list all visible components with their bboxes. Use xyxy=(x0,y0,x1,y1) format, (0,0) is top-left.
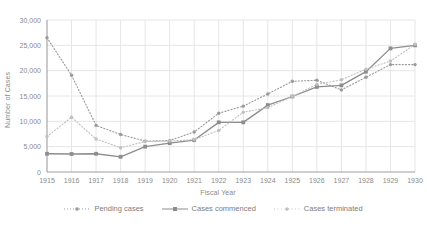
x-tick-label: 1922 xyxy=(211,177,227,184)
x-tick-label: 1926 xyxy=(309,177,325,184)
data-point[interactable] xyxy=(168,139,171,142)
data-point[interactable] xyxy=(119,155,123,159)
data-point[interactable] xyxy=(340,88,343,91)
data-point[interactable] xyxy=(315,83,318,86)
y-tick-label: 15,000 xyxy=(20,93,42,100)
legend-label-pending-cases: Pending cases xyxy=(94,204,143,213)
data-point[interactable] xyxy=(70,74,73,77)
data-point[interactable] xyxy=(119,146,122,149)
data-point[interactable] xyxy=(364,67,367,70)
plot-area: 05,00010,00015,00020,00025,00030,000 191… xyxy=(0,0,427,231)
x-tick-labels: 1915191619171918191919201921192219231924… xyxy=(39,177,423,184)
legend-label-cases-commenced: Cases commenced xyxy=(192,204,256,213)
data-point[interactable] xyxy=(364,76,367,79)
y-axis-title: Number of Cases xyxy=(4,72,11,128)
data-point[interactable] xyxy=(70,116,73,119)
data-point[interactable] xyxy=(94,137,97,140)
legend-swatch-pending-icon xyxy=(64,205,90,213)
x-tick-label: 1925 xyxy=(285,177,301,184)
data-point[interactable] xyxy=(389,46,393,50)
y-tick-label: 25,000 xyxy=(20,42,42,49)
x-tick-label: 1915 xyxy=(39,177,55,184)
legend-label-cases-terminated: Cases terminated xyxy=(304,204,363,213)
legend-swatch-commenced-icon xyxy=(162,205,188,213)
data-point[interactable] xyxy=(70,152,74,156)
data-series xyxy=(45,36,417,159)
data-point[interactable] xyxy=(266,106,269,109)
data-point[interactable] xyxy=(217,112,220,115)
data-point[interactable] xyxy=(94,124,97,127)
data-point[interactable] xyxy=(340,78,343,81)
x-tick-label: 1917 xyxy=(88,177,104,184)
data-point[interactable] xyxy=(413,63,416,66)
data-point[interactable] xyxy=(143,145,147,149)
data-point[interactable] xyxy=(340,83,344,87)
legend-item-pending-cases[interactable]: Pending cases xyxy=(64,204,143,213)
legend-swatch-terminated-icon xyxy=(274,205,300,213)
data-point[interactable] xyxy=(242,104,245,107)
legend-item-cases-commenced[interactable]: Cases commenced xyxy=(162,204,256,213)
data-point[interactable] xyxy=(315,79,318,82)
x-tick-label: 1929 xyxy=(383,177,399,184)
x-tick-label: 1919 xyxy=(137,177,153,184)
x-tick-label: 1928 xyxy=(358,177,374,184)
x-axis-title: Fiscal Year xyxy=(200,189,235,196)
y-tick-label: 30,000 xyxy=(20,17,42,24)
y-tick-label: 5,000 xyxy=(23,143,41,150)
x-tick-label: 1930 xyxy=(407,177,423,184)
y-tick-labels: 05,00010,00015,00020,00025,00030,000 xyxy=(20,17,42,176)
series-line-0 xyxy=(47,38,415,141)
y-tick-label: 20,000 xyxy=(20,67,42,74)
x-tick-label: 1927 xyxy=(334,177,350,184)
data-point[interactable] xyxy=(193,130,196,133)
series-line-1 xyxy=(47,45,415,156)
data-point[interactable] xyxy=(217,129,220,132)
data-point[interactable] xyxy=(291,80,294,83)
data-point[interactable] xyxy=(217,120,221,124)
data-point[interactable] xyxy=(413,43,416,46)
data-point[interactable] xyxy=(389,63,392,66)
data-point[interactable] xyxy=(291,95,294,98)
data-point[interactable] xyxy=(94,152,98,156)
data-point[interactable] xyxy=(143,140,146,143)
data-point[interactable] xyxy=(45,36,48,39)
x-tick-label: 1916 xyxy=(64,177,80,184)
y-tick-label: 10,000 xyxy=(20,118,42,125)
data-point[interactable] xyxy=(45,135,48,138)
x-tick-label: 1918 xyxy=(113,177,129,184)
x-tick-label: 1921 xyxy=(186,177,202,184)
data-point[interactable] xyxy=(193,138,196,141)
x-tick-label: 1920 xyxy=(162,177,178,184)
data-point[interactable] xyxy=(45,152,49,156)
data-point[interactable] xyxy=(241,120,245,124)
data-point[interactable] xyxy=(119,133,122,136)
data-point[interactable] xyxy=(266,92,269,95)
line-chart: 05,00010,00015,00020,00025,00030,000 191… xyxy=(0,0,427,231)
chart-legend: Pending cases Cases commenced Cases term… xyxy=(0,204,427,213)
legend-item-cases-terminated[interactable]: Cases terminated xyxy=(274,204,363,213)
data-point[interactable] xyxy=(242,111,245,114)
y-tick-label: 0 xyxy=(37,169,41,176)
x-tick-label: 1923 xyxy=(235,177,251,184)
data-point[interactable] xyxy=(389,59,392,62)
gridlines xyxy=(47,20,415,172)
x-tick-label: 1924 xyxy=(260,177,276,184)
